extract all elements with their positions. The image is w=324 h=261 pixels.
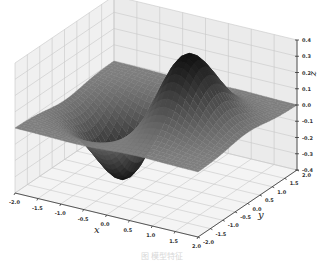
x-tick-label: -1.5	[32, 205, 43, 211]
z-tick-label: 0.0	[302, 102, 311, 108]
x-tick-label: 1.0	[146, 232, 155, 238]
x-tick-label: 2.0	[192, 243, 201, 249]
x-tick-label: -2.0	[9, 199, 20, 205]
z-tick-label: 0.1	[302, 86, 311, 92]
z-tick-label: -0.2	[302, 135, 313, 141]
figure-caption: 图 模型特征	[0, 250, 324, 261]
y-tick-label: -1.5	[215, 231, 226, 237]
y-tick-label: -2.0	[203, 239, 214, 245]
y-axis-label: y	[257, 209, 264, 220]
y-tick-label: -0.5	[240, 214, 251, 220]
x-tick-label: 0.0	[101, 221, 110, 227]
x-axis-label: x	[94, 224, 100, 235]
x-tick-label: 1.5	[169, 238, 178, 244]
z-axis-label: z	[309, 70, 320, 77]
y-tick-label: 1.0	[277, 189, 286, 195]
y-tick-label: -1.0	[228, 222, 239, 228]
y-tick-label: 0.5	[265, 197, 274, 203]
x-tick-label: -0.5	[78, 216, 89, 222]
y-tick-label: 1.5	[290, 180, 299, 186]
x-tick-label: 0.5	[123, 227, 132, 233]
z-tick-label: 0.4	[302, 37, 311, 43]
z-tick-label: -0.4	[302, 167, 313, 173]
z-tick-label: 0.3	[302, 53, 311, 59]
x-tick-label: -1.0	[55, 210, 66, 216]
z-tick-label: -0.1	[302, 118, 313, 124]
z-tick-label: -0.3	[302, 151, 313, 157]
